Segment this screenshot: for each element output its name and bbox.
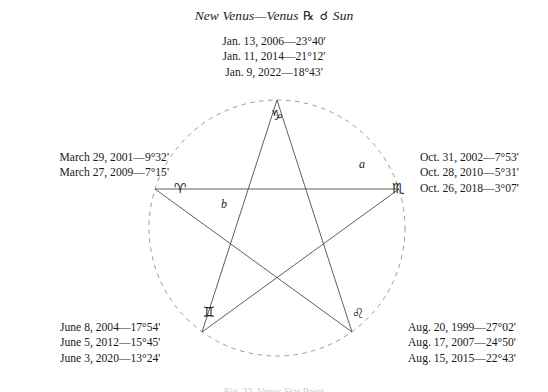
- aries-glyph-icon: ♈: [174, 180, 187, 196]
- annotation-scorpio: Oct. 31, 2002—7°53' Oct. 28, 2010—5°31' …: [420, 150, 519, 196]
- scorpio-glyph-icon: ♏: [392, 180, 405, 196]
- annotation-line: June 5, 2012—15°45': [60, 335, 160, 350]
- annotation-capricorn: Jan. 13, 2006—23°40' Jan. 11, 2014—21°12…: [0, 34, 548, 80]
- annotation-line: March 27, 2009—7°15': [60, 165, 169, 180]
- annotation-line: June 8, 2004—17°54': [60, 320, 160, 335]
- annotation-line: Jan. 11, 2014—21°12': [0, 49, 548, 64]
- zodiac-circle: [149, 100, 405, 356]
- annotation-line: Oct. 28, 2010—5°31': [420, 165, 519, 180]
- leo-glyph-icon: ♌: [352, 305, 365, 321]
- star-edge-leo-capricorn: [277, 100, 352, 332]
- segment-label-a: a: [359, 157, 365, 171]
- annotation-line: March 29, 2001—9°32': [60, 150, 169, 165]
- segment-label-b: b: [221, 197, 227, 211]
- star-edge-gemini-scorpio: [202, 189, 399, 332]
- annotation-leo: Aug. 20, 1999—27°02' Aug. 17, 2007—24°50…: [408, 320, 516, 366]
- gemini-glyph-icon: ♊: [203, 304, 216, 320]
- annotation-line: Jan. 9, 2022—18°43': [0, 65, 548, 80]
- annotation-aries: March 29, 2001—9°32' March 27, 2009—7°15…: [60, 150, 169, 181]
- annotation-line: Jan. 13, 2006—23°40': [0, 34, 548, 49]
- annotation-line: Aug. 15, 2015—22°43': [408, 351, 516, 366]
- venus-pentagram-figure: New Venus—Venus ℞ ☌ Sun ♑ ♈ ♏ ♊ ♌ a b Ja…: [0, 0, 548, 392]
- annotation-line: Oct. 31, 2002—7°53': [420, 150, 519, 165]
- annotation-line: Aug. 20, 1999—27°02': [408, 320, 516, 335]
- star-edge-capricorn-gemini: [202, 100, 277, 332]
- star-edge-aries-leo: [155, 189, 352, 332]
- annotation-line: Aug. 17, 2007—24°50': [408, 335, 516, 350]
- figure-caption: Fig. 22. Venus Star Point: [0, 386, 548, 392]
- capricorn-glyph-icon: ♑: [271, 107, 284, 123]
- annotation-line: June 3, 2020—13°24': [60, 351, 160, 366]
- annotation-gemini: June 8, 2004—17°54' June 5, 2012—15°45' …: [60, 320, 160, 366]
- annotation-line: Oct. 26, 2018—3°07': [420, 181, 519, 196]
